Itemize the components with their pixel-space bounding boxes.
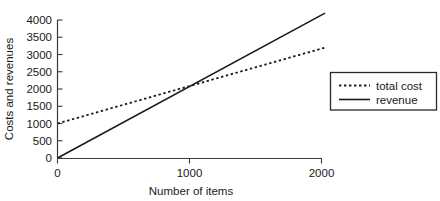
y-tick-label: 3000 — [26, 49, 52, 61]
y-tick-label: 2000 — [26, 83, 52, 95]
x-tick-label: 2000 — [309, 167, 335, 179]
y-tick-label: 2500 — [26, 66, 52, 78]
legend-label-revenue: revenue — [376, 94, 418, 106]
y-tick-label: 1000 — [26, 118, 52, 130]
chart-legend: total cost revenue — [331, 73, 437, 111]
y-axis-title: Costs and revenues — [3, 38, 15, 141]
legend-label-total-cost: total cost — [376, 80, 423, 92]
y-tick-label: 4000 — [26, 14, 52, 26]
series-line-revenue — [58, 13, 326, 158]
y-tick-label: 500 — [33, 135, 52, 147]
y-tick-label: 0 — [46, 152, 52, 164]
y-tick-label: 3500 — [26, 31, 52, 43]
x-axis-title: Number of items — [149, 185, 234, 197]
chart-figure: Costs and revenues 4000 3500 3000 2500 2… — [0, 0, 440, 201]
x-tick-label: 1000 — [177, 167, 203, 179]
line-chart: Costs and revenues 4000 3500 3000 2500 2… — [0, 0, 440, 201]
x-tick-label: 0 — [54, 167, 60, 179]
y-tick-label: 1500 — [26, 100, 52, 112]
